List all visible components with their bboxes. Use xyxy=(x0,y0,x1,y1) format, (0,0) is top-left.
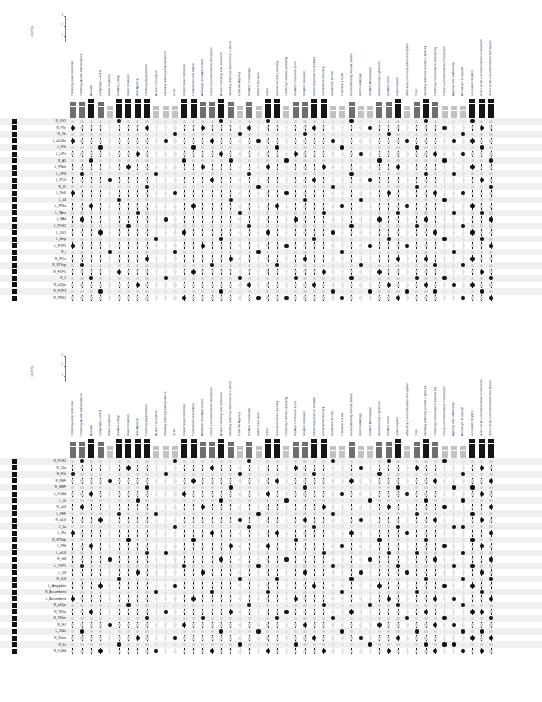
column-header[interactable]: Reward Satiation xyxy=(300,0,309,118)
column-header[interactable]: Non-Facial Communication-Production xyxy=(477,0,486,118)
matrix-cell[interactable] xyxy=(77,295,86,302)
column-header[interactable]: Self Knowledge xyxy=(356,340,365,458)
column-header[interactable]: Language Control xyxy=(96,340,105,458)
column-header[interactable]: Sensorimotor Dynamics xyxy=(375,340,384,458)
matrix-cell[interactable] xyxy=(161,648,170,655)
column-header[interactable]: Reinforcement Learning xyxy=(273,0,282,118)
column-header[interactable]: Motor Initiation xyxy=(105,340,114,458)
matrix-cell[interactable] xyxy=(449,295,458,302)
matrix-cell[interactable] xyxy=(338,648,347,655)
column-header[interactable]: Action Planning and Selection xyxy=(217,0,226,118)
column-header[interactable]: Circadian Rhythm xyxy=(468,340,477,458)
matrix-cell[interactable] xyxy=(458,648,467,655)
matrix-cell[interactable] xyxy=(207,295,216,302)
column-header[interactable]: Planning-Flexible Updating xyxy=(282,340,291,458)
matrix-cell[interactable] xyxy=(347,295,356,302)
column-header[interactable]: Action Perception xyxy=(152,340,161,458)
column-header[interactable]: Initial Response to Reward xyxy=(310,340,319,458)
matrix-cell[interactable] xyxy=(319,295,328,302)
matrix-cell[interactable] xyxy=(375,295,384,302)
matrix-cell[interactable] xyxy=(170,295,179,302)
matrix-cell[interactable] xyxy=(263,295,272,302)
column-header[interactable]: Working Memory Maintenance xyxy=(161,340,170,458)
matrix-cell[interactable] xyxy=(96,295,105,302)
matrix-cell[interactable] xyxy=(310,648,319,655)
matrix-cell[interactable] xyxy=(412,648,421,655)
matrix-cell[interactable] xyxy=(254,295,263,302)
column-header[interactable]: Non-Facial Communication-Production xyxy=(477,340,486,458)
matrix-cell[interactable] xyxy=(124,295,133,302)
column-header[interactable]: Frustrative Nonreward xyxy=(189,0,198,118)
matrix-cell[interactable] xyxy=(87,295,96,302)
column-header[interactable]: Arousal xyxy=(87,0,96,118)
matrix-cell[interactable] xyxy=(291,648,300,655)
matrix-cell[interactable] xyxy=(421,648,430,655)
column-header[interactable]: Animacy Perception xyxy=(458,0,467,118)
column-header[interactable]: Working Memory Limited Capacity xyxy=(421,340,430,458)
column-header[interactable]: Planning-Goal Selection xyxy=(68,0,77,118)
column-header[interactable]: Working Memory Interference Control xyxy=(226,0,235,118)
column-header[interactable]: Reward Prediction Error xyxy=(291,340,300,458)
column-header[interactable]: Reward Effort xyxy=(384,0,393,118)
column-header[interactable]: Fear xyxy=(412,340,421,458)
column-header[interactable]: Reward Anticipation xyxy=(366,0,375,118)
column-header[interactable]: Self Agency xyxy=(133,340,142,458)
column-header[interactable]: Facial Communication-Reception xyxy=(207,340,216,458)
matrix-cell[interactable] xyxy=(431,295,440,302)
column-header[interactable]: Non-Facial Communication-Reception xyxy=(486,0,495,118)
column-header[interactable]: Motor Initiation xyxy=(124,340,133,458)
column-header[interactable]: Declarative Memory xyxy=(319,0,328,118)
column-header[interactable]: Planning-Active Maintenance xyxy=(77,0,86,118)
matrix-cell[interactable] xyxy=(468,295,477,302)
matrix-cell[interactable] xyxy=(124,648,133,655)
matrix-cell[interactable] xyxy=(198,295,207,302)
matrix-cell[interactable] xyxy=(152,295,161,302)
column-header[interactable]: Facial Communication-Reception xyxy=(207,0,216,118)
matrix-row[interactable]: R_9-46d xyxy=(0,648,542,655)
matrix-cell[interactable] xyxy=(263,648,272,655)
column-header[interactable]: Frustrative Nonreward xyxy=(189,340,198,458)
column-header[interactable]: Habit xyxy=(263,0,272,118)
matrix-cell[interactable] xyxy=(440,295,449,302)
column-header[interactable]: Reward Probability xyxy=(245,340,254,458)
column-header[interactable]: Agency and Ownership xyxy=(449,340,458,458)
column-header[interactable]: Working Memory Interference Control xyxy=(226,340,235,458)
column-header[interactable]: Working Memory Limited Capacity xyxy=(421,0,430,118)
matrix-cell[interactable] xyxy=(273,295,282,302)
matrix-cell[interactable] xyxy=(338,295,347,302)
matrix-cell[interactable] xyxy=(310,295,319,302)
matrix-cell[interactable] xyxy=(207,648,216,655)
matrix-cell[interactable] xyxy=(68,648,77,655)
matrix-cell[interactable] xyxy=(189,648,198,655)
column-header[interactable]: Planning-suppression xyxy=(142,0,151,118)
matrix-cell[interactable] xyxy=(273,648,282,655)
matrix-cell[interactable] xyxy=(384,648,393,655)
matrix-cell[interactable] xyxy=(245,295,254,302)
matrix-cell[interactable] xyxy=(421,295,430,302)
column-header[interactable]: Planning-Active Maintenance xyxy=(77,340,86,458)
column-header[interactable]: Fear xyxy=(412,0,421,118)
column-header[interactable]: Olfactory Communication-Reception xyxy=(403,340,412,458)
matrix-cell[interactable] xyxy=(291,295,300,302)
matrix-row[interactable]: R_PRS1 xyxy=(0,295,542,302)
column-header[interactable]: Reward Delay xyxy=(114,340,123,458)
matrix-cell[interactable] xyxy=(282,295,291,302)
column-header[interactable]: External Agency xyxy=(235,340,244,458)
column-header[interactable]: Motor Execution xyxy=(254,0,263,118)
matrix-cell[interactable] xyxy=(152,648,161,655)
column-header[interactable]: Animacy Perception xyxy=(458,340,467,458)
column-header[interactable]: Potential Threat xyxy=(338,0,347,118)
column-header[interactable]: External Agency xyxy=(235,0,244,118)
column-header[interactable]: Facial Communication-Production xyxy=(440,340,449,458)
column-header[interactable]: Sustained Threat xyxy=(328,340,337,458)
matrix-cell[interactable] xyxy=(477,295,486,302)
column-header[interactable]: Reward Delay xyxy=(114,0,123,118)
matrix-cell[interactable] xyxy=(217,648,226,655)
matrix-cell[interactable] xyxy=(161,295,170,302)
column-header[interactable]: Planning-suppression xyxy=(142,340,151,458)
matrix-cell[interactable] xyxy=(356,648,365,655)
matrix-cell[interactable] xyxy=(384,295,393,302)
matrix-cell[interactable] xyxy=(170,648,179,655)
matrix-cell[interactable] xyxy=(412,295,421,302)
matrix-cell[interactable] xyxy=(486,648,495,655)
